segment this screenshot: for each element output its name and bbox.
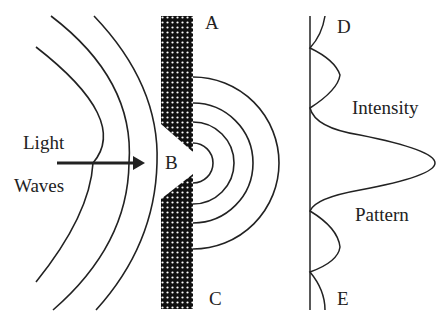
label-c: C: [209, 289, 222, 308]
label-pattern: Pattern: [355, 205, 409, 224]
label-b: B: [165, 153, 178, 172]
label-d: D: [337, 17, 351, 36]
diffracted-wave-4: [193, 77, 279, 249]
diffracted-wavefronts: [193, 77, 279, 249]
label-e: E: [337, 289, 349, 308]
barrier-lower: [161, 174, 193, 309]
diffracted-wave-3: [193, 103, 253, 223]
diffracted-wave-1: [193, 143, 213, 183]
label-waves: Waves: [14, 176, 64, 195]
barrier-upper: [161, 16, 193, 152]
single-slit-diffraction-diagram: [0, 0, 443, 322]
label-a: A: [205, 13, 219, 32]
intensity-curve: [310, 16, 435, 310]
label-light: Light: [23, 133, 64, 152]
intensity-pattern: [310, 16, 435, 310]
label-intensity: Intensity: [352, 98, 419, 117]
arrow-icon: [57, 156, 145, 170]
